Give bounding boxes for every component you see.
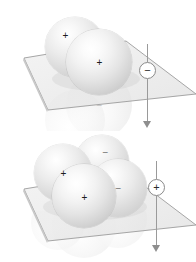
panel-bottom-four-sphere: + − − + + bbox=[0, 131, 196, 262]
scene-bottom: + − − + + bbox=[0, 131, 196, 262]
field-line-upper-top bbox=[147, 44, 148, 62]
field-line-lower-bottom bbox=[156, 196, 157, 247]
charge-sign-back-right-bottom: − bbox=[101, 148, 110, 157]
field-line-lower-top bbox=[147, 79, 148, 123]
panel-top-two-sphere: + + − − bbox=[0, 0, 196, 131]
field-arrowhead-top bbox=[143, 121, 151, 128]
scene-top: + + − − bbox=[0, 0, 196, 131]
charge-sign-back-left-bottom: + bbox=[59, 169, 68, 178]
charge-sign-front-top: + bbox=[95, 58, 104, 67]
positive-point-charge-bottom[interactable]: + bbox=[148, 179, 165, 196]
charge-sign-front-left-bottom: + bbox=[80, 193, 89, 202]
figure-container: + + − − bbox=[0, 0, 196, 262]
point-charge-sign-top: − bbox=[140, 63, 155, 78]
field-arrowhead-bottom bbox=[152, 245, 160, 252]
charge-sign-mirror-top: − bbox=[95, 101, 104, 110]
field-line-upper-bottom bbox=[156, 161, 157, 179]
charge-sign-front-right-bottom: − bbox=[114, 184, 123, 193]
charge-sign-back-top: + bbox=[61, 31, 70, 40]
point-charge-sign-bottom: + bbox=[149, 180, 164, 195]
negative-point-charge-top[interactable]: − bbox=[139, 62, 156, 79]
